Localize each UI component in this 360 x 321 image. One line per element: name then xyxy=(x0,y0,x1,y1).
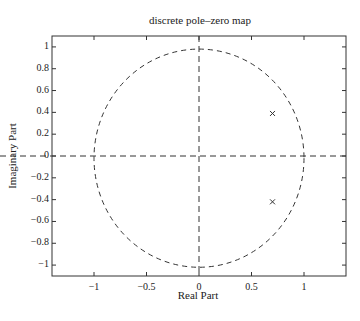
y-tick-label: −0.2 xyxy=(18,171,49,182)
y-tick-label: −0.6 xyxy=(18,214,49,225)
y-tick-label: −0.4 xyxy=(18,193,49,204)
x-tick-label: 0.5 xyxy=(237,281,267,292)
y-tick-label: 0.6 xyxy=(18,84,49,95)
x-tick-label: −1 xyxy=(79,281,109,292)
x-tick-label: −0.5 xyxy=(132,281,162,292)
chart-title: discrete pole–zero map xyxy=(20,14,360,26)
y-axis-label: Imaginary Part xyxy=(6,106,18,206)
pole-marker xyxy=(270,199,275,204)
y-tick-label: 1 xyxy=(18,40,49,51)
y-tick-label: −0.8 xyxy=(18,236,49,247)
x-tick-label: 0 xyxy=(184,281,214,292)
y-tick-label: 0.4 xyxy=(18,105,49,116)
y-tick-label: 0 xyxy=(18,149,49,160)
x-tick-label: 1 xyxy=(289,281,319,292)
pole-marker xyxy=(270,111,275,116)
pole-zero-plot xyxy=(0,0,360,321)
y-tick-label: −1 xyxy=(18,258,49,269)
y-tick-label: 0.2 xyxy=(18,127,49,138)
y-tick-label: 0.8 xyxy=(18,62,49,73)
